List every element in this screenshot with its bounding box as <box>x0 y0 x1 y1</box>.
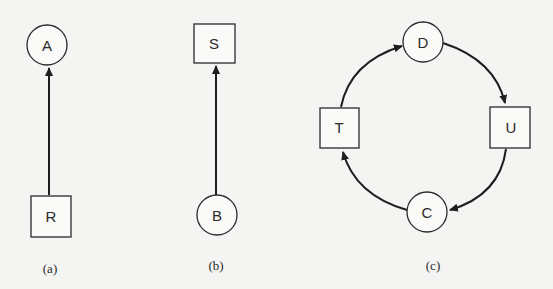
node-u: U <box>490 107 530 148</box>
node-d: D <box>403 22 443 62</box>
edge-u-to-c <box>450 149 506 210</box>
edge-c-to-t <box>343 152 407 210</box>
figure-b: S B (b) <box>194 24 237 273</box>
node-b: B <box>197 195 237 235</box>
caption-c: (c) <box>426 258 440 273</box>
svg-text:U: U <box>506 119 517 136</box>
svg-text:D: D <box>418 34 429 51</box>
node-c: C <box>407 192 447 232</box>
svg-text:S: S <box>209 35 219 52</box>
figure-a: A R (a) <box>27 25 71 276</box>
svg-text:B: B <box>212 207 222 224</box>
svg-text:C: C <box>422 204 433 221</box>
node-a: A <box>27 25 67 65</box>
edge-t-to-d <box>341 46 402 107</box>
caption-b: (b) <box>208 258 223 273</box>
node-t: T <box>320 108 359 148</box>
figure-c: D U C T (c) <box>320 22 530 273</box>
svg-text:T: T <box>334 119 343 136</box>
diagram-canvas: A R (a) S B (b) D U <box>0 0 553 289</box>
node-s: S <box>194 24 235 63</box>
caption-a: (a) <box>43 261 57 276</box>
svg-text:A: A <box>42 37 52 54</box>
edge-d-to-u <box>443 43 505 103</box>
node-r: R <box>31 196 71 237</box>
svg-text:R: R <box>46 208 57 225</box>
